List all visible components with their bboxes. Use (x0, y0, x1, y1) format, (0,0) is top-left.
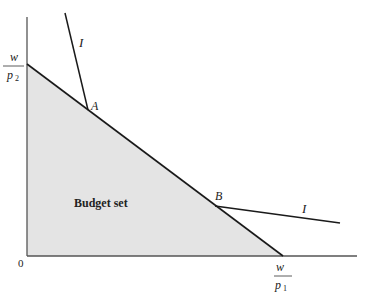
point-label-a: A (90, 99, 99, 113)
curve-label-i-upper: I (78, 35, 84, 50)
origin-label: 0 (18, 257, 24, 269)
y-intercept-denominator: p (6, 68, 13, 82)
y-intercept-numerator: w (10, 50, 18, 64)
x-intercept-numerator: w (276, 260, 284, 274)
y-intercept-label: w p 2 (3, 50, 24, 83)
point-label-b: B (215, 189, 223, 203)
x-intercept-subscript: 1 (283, 284, 287, 293)
y-intercept-subscript: 2 (15, 74, 19, 83)
budget-set-label: Budget set (74, 196, 128, 210)
x-intercept-label: w p 1 (274, 260, 292, 293)
curve-label-i-lower: I (301, 201, 307, 216)
x-intercept-denominator: p (274, 278, 281, 292)
budget-set-diagram: I I A B Budget set 0 w p 2 w p 1 (0, 0, 367, 300)
